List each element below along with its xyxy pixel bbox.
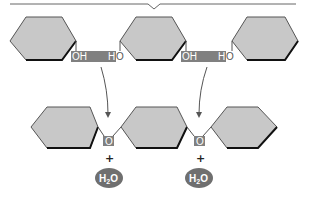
bottom-monomer-2 bbox=[121, 107, 187, 148]
plus-sign: + bbox=[196, 152, 205, 165]
plus-sign: + bbox=[105, 152, 114, 165]
reaction-arrow-1 bbox=[101, 67, 111, 118]
oxygen-label: O bbox=[226, 51, 234, 62]
top-bracket bbox=[10, 4, 296, 9]
hydroxyl-label: OH bbox=[72, 51, 87, 62]
oxygen-label: O bbox=[116, 51, 124, 62]
reaction-site-2: OH H O bbox=[181, 51, 234, 62]
dehydration-synthesis-diagram: OH H O OH H O O + H2O bbox=[0, 0, 313, 199]
glycosidic-linkage-1: O + H2O bbox=[95, 127, 123, 188]
bottom-monomer-3 bbox=[211, 107, 277, 148]
top-monomer-2 bbox=[120, 17, 186, 60]
bottom-monomer-1 bbox=[31, 107, 98, 148]
top-monomer-1 bbox=[10, 17, 76, 60]
hydroxyl-label: OH bbox=[182, 51, 197, 62]
bridge-oxygen-label: O bbox=[196, 136, 204, 147]
bridge-oxygen-label: O bbox=[105, 136, 113, 147]
reaction-site-1: OH H O bbox=[71, 51, 124, 62]
top-monomer-3 bbox=[232, 17, 298, 60]
hydrogen-label: H bbox=[218, 51, 225, 62]
hydrogen-label: H bbox=[108, 51, 115, 62]
glycosidic-linkage-2: O + H2O bbox=[185, 127, 213, 188]
reaction-arrow-2 bbox=[196, 67, 207, 118]
